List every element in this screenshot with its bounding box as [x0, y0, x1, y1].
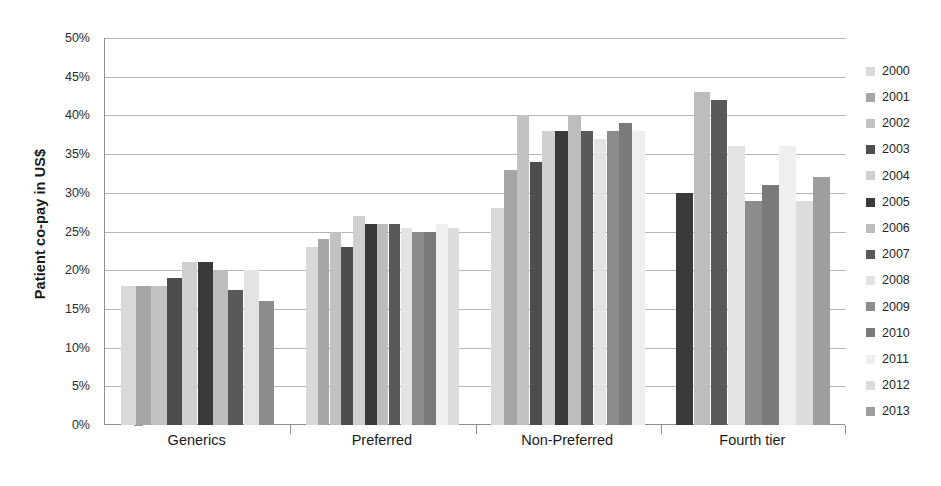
legend-swatch-icon — [866, 145, 875, 154]
bar — [796, 201, 813, 425]
bar — [330, 232, 342, 426]
bar — [762, 185, 779, 425]
bar — [121, 286, 136, 425]
bar — [530, 162, 543, 425]
y-axis-tick-label: 5% — [42, 379, 90, 393]
legend-item-label: 2012 — [882, 379, 910, 392]
legend-swatch-icon — [866, 328, 875, 337]
legend-item-label: 2006 — [882, 222, 910, 235]
y-axis-tick-label: 30% — [42, 186, 90, 200]
bar-group — [661, 38, 846, 425]
legend-swatch-icon — [866, 407, 875, 416]
y-axis-tick-mark — [134, 425, 143, 426]
legend-item-label: 2011 — [882, 353, 909, 366]
legend-swatch-icon — [866, 276, 875, 285]
plot-area — [104, 38, 845, 425]
y-axis-tick-label: 20% — [42, 263, 90, 277]
bar — [745, 201, 762, 425]
bar — [151, 286, 166, 425]
bar-series-container — [105, 38, 846, 425]
bar — [694, 92, 711, 425]
x-axis-category-labels: GenericsPreferredNon-PreferredFourth tie… — [104, 432, 845, 460]
legend-item[interactable]: 2007 — [866, 241, 941, 267]
bar — [517, 115, 530, 425]
bar — [136, 286, 151, 425]
legend-item-label: 2004 — [882, 170, 910, 183]
x-axis-category-label: Generics — [104, 432, 289, 448]
bar-group — [105, 38, 290, 425]
bar-group — [290, 38, 475, 425]
legend-swatch-icon — [866, 93, 875, 102]
x-axis-category-label: Non-Preferred — [475, 432, 660, 448]
legend-item-label: 2002 — [882, 117, 910, 130]
legend-item[interactable]: 2000 — [866, 58, 941, 84]
bar — [813, 177, 830, 425]
legend-swatch-icon — [866, 171, 875, 180]
bar — [167, 278, 182, 425]
bar — [448, 228, 460, 425]
legend-item-label: 2009 — [882, 301, 910, 314]
bar — [568, 115, 581, 425]
bar — [676, 193, 693, 425]
legend-item[interactable]: 2013 — [866, 398, 941, 424]
y-axis-tick-labels: 0%5%10%15%20%25%30%35%40%45%50% — [42, 0, 98, 486]
bar — [594, 139, 607, 425]
legend-swatch-icon — [866, 250, 875, 259]
legend-item[interactable]: 2001 — [866, 84, 941, 110]
legend-item[interactable]: 2003 — [866, 137, 941, 163]
legend-item[interactable]: 2006 — [866, 215, 941, 241]
legend-item[interactable]: 2011 — [866, 346, 941, 372]
bar — [401, 228, 413, 425]
bar — [213, 270, 228, 425]
legend-item[interactable]: 2010 — [866, 320, 941, 346]
bar-group — [476, 38, 661, 425]
bar — [542, 131, 555, 425]
legend-item-label: 2001 — [882, 91, 910, 104]
y-axis-tick-label: 15% — [42, 302, 90, 316]
bar — [341, 247, 353, 425]
bar — [198, 262, 213, 425]
y-axis-tick-label: 35% — [42, 147, 90, 161]
bar — [581, 131, 594, 425]
bar — [306, 247, 318, 425]
legend-item-label: 2010 — [882, 327, 910, 340]
y-axis-tick-label: 25% — [42, 225, 90, 239]
bar — [504, 170, 517, 425]
bar — [318, 239, 330, 425]
bar — [728, 146, 745, 425]
legend-item-label: 2003 — [882, 143, 910, 156]
legend-item[interactable]: 2009 — [866, 294, 941, 320]
legend-swatch-icon — [866, 67, 875, 76]
bar — [244, 270, 259, 425]
y-axis-tick-label: 50% — [42, 31, 90, 45]
legend-item-label: 2007 — [882, 248, 910, 261]
legend-item[interactable]: 2004 — [866, 163, 941, 189]
legend-swatch-icon — [866, 119, 875, 128]
bar — [711, 100, 728, 425]
legend-item[interactable]: 2008 — [866, 268, 941, 294]
bar — [259, 301, 274, 425]
legend-item[interactable]: 2012 — [866, 372, 941, 398]
chart-figure: Patient co-pay in US$ 0%5%10%15%20%25%30… — [0, 0, 941, 486]
bar — [607, 131, 620, 425]
bar — [632, 131, 645, 425]
bar — [619, 123, 632, 425]
y-axis-tick-label: 45% — [42, 70, 90, 84]
legend-swatch-icon — [866, 198, 875, 207]
legend-item-label: 2013 — [882, 405, 910, 418]
y-axis-tick-label: 40% — [42, 108, 90, 122]
x-axis-category-label: Fourth tier — [660, 432, 845, 448]
legend-swatch-icon — [866, 302, 875, 311]
x-axis-category-label: Preferred — [289, 432, 474, 448]
bar — [228, 290, 243, 425]
legend-item-label: 2005 — [882, 196, 910, 209]
legend: 2000200120022003200420052006200720082009… — [866, 58, 941, 425]
legend-item[interactable]: 2005 — [866, 189, 941, 215]
y-axis-tick-label: 10% — [42, 341, 90, 355]
bar — [491, 208, 504, 425]
bar — [779, 146, 796, 425]
bar — [412, 232, 424, 426]
legend-item[interactable]: 2002 — [866, 110, 941, 136]
legend-swatch-icon — [866, 381, 875, 390]
bar — [424, 232, 436, 426]
